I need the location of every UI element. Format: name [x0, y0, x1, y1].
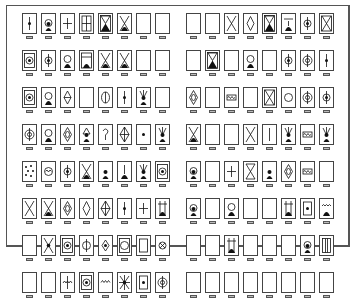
card-dot-line[interactable] — [117, 198, 132, 227]
card-tab[interactable] — [121, 221, 128, 224]
card-cross[interactable] — [60, 13, 75, 42]
card-tab[interactable] — [266, 295, 273, 298]
card-blank[interactable] — [243, 198, 258, 227]
card-tab[interactable] — [190, 73, 197, 76]
card-line-mound[interactable] — [281, 13, 296, 42]
card-tab[interactable] — [247, 221, 254, 224]
card-tab[interactable] — [45, 110, 52, 113]
card-hood-figure[interactable] — [186, 198, 201, 227]
card-hourglass-figure[interactable] — [205, 50, 220, 79]
card-pawn-rays[interactable] — [281, 124, 296, 153]
card-tab[interactable] — [190, 110, 197, 113]
card-tab[interactable] — [64, 73, 71, 76]
card-question[interactable] — [98, 124, 113, 153]
card-tab[interactable] — [102, 295, 109, 298]
card-blank[interactable] — [41, 272, 56, 301]
card-tab[interactable] — [140, 147, 147, 150]
card-diamond-oval[interactable] — [60, 124, 75, 153]
card-blank[interactable] — [155, 87, 170, 116]
card-tab[interactable] — [45, 73, 52, 76]
card-tab[interactable] — [102, 110, 109, 113]
card-tab[interactable] — [159, 295, 166, 298]
card-cross[interactable] — [136, 198, 151, 227]
card-tab[interactable] — [26, 147, 33, 150]
card-target-box[interactable] — [155, 161, 170, 190]
card-tab[interactable] — [266, 258, 273, 261]
card-tab[interactable] — [45, 221, 52, 224]
card-line[interactable] — [262, 124, 277, 153]
card-tab[interactable] — [209, 258, 216, 261]
card-tab[interactable] — [45, 147, 52, 150]
card-tab[interactable] — [159, 73, 166, 76]
card-tab[interactable] — [102, 73, 109, 76]
card-tab[interactable] — [190, 295, 197, 298]
card-blank[interactable] — [205, 161, 220, 190]
card-wave-mound[interactable] — [319, 198, 334, 227]
card-tab[interactable] — [228, 73, 235, 76]
card-circle-mound[interactable] — [41, 87, 56, 116]
card-blank[interactable] — [155, 50, 170, 79]
card-pawn-rays[interactable] — [136, 161, 151, 190]
card-dots-scatter[interactable] — [22, 161, 37, 190]
card-mound[interactable] — [117, 161, 132, 190]
card-blank[interactable] — [136, 50, 151, 79]
card-window-figure[interactable] — [79, 50, 94, 79]
card-tab[interactable] — [323, 73, 330, 76]
card-tab[interactable] — [247, 295, 254, 298]
card-blank[interactable] — [300, 272, 315, 301]
card-blank[interactable] — [262, 198, 277, 227]
card-blank[interactable] — [243, 235, 258, 264]
card-blank[interactable] — [205, 124, 220, 153]
card-blank[interactable] — [243, 87, 258, 116]
card-dot-line[interactable] — [117, 87, 132, 116]
card-tab[interactable] — [159, 147, 166, 150]
card-x-lines[interactable] — [22, 198, 37, 227]
card-blank[interactable] — [205, 235, 220, 264]
card-wave-box[interactable] — [300, 124, 315, 153]
card-tab[interactable] — [26, 258, 33, 261]
card-pawn[interactable] — [262, 161, 277, 190]
card-dot-line[interactable] — [319, 50, 334, 79]
card-pawn-rays[interactable] — [136, 87, 151, 116]
card-dot-circle[interactable] — [41, 50, 56, 79]
card-dot-diamond[interactable] — [98, 235, 113, 264]
card-dot-circle[interactable] — [281, 50, 296, 79]
card-star-diamond[interactable] — [60, 87, 75, 116]
card-circle-box[interactable] — [117, 235, 132, 264]
card-tab[interactable] — [304, 110, 311, 113]
card-tab[interactable] — [285, 147, 292, 150]
card-window-mound[interactable] — [224, 235, 239, 264]
card-blank[interactable] — [205, 198, 220, 227]
card-diamond[interactable] — [243, 13, 258, 42]
card-blank[interactable] — [224, 124, 239, 153]
card-wave-box[interactable] — [224, 87, 239, 116]
card-tab[interactable] — [323, 221, 330, 224]
card-x-figure[interactable] — [41, 198, 56, 227]
card-dot[interactable] — [136, 124, 151, 153]
card-tab[interactable] — [285, 295, 292, 298]
card-tab[interactable] — [83, 147, 90, 150]
card-blank[interactable] — [79, 87, 94, 116]
card-dot-box[interactable] — [136, 272, 151, 301]
card-circle-target[interactable] — [300, 50, 315, 79]
card-tab[interactable] — [140, 221, 147, 224]
card-blank[interactable] — [281, 272, 296, 301]
card-blank[interactable] — [186, 13, 201, 42]
card-blank[interactable] — [319, 272, 334, 301]
card-pawn[interactable] — [98, 161, 113, 190]
card-tab[interactable] — [83, 73, 90, 76]
card-cross[interactable] — [224, 161, 239, 190]
card-tab[interactable] — [83, 258, 90, 261]
card-tab[interactable] — [228, 295, 235, 298]
card-tab[interactable] — [45, 258, 52, 261]
card-tab[interactable] — [83, 295, 90, 298]
card-tab[interactable] — [83, 36, 90, 39]
card-circle-target[interactable] — [155, 272, 170, 301]
card-target-box[interactable] — [60, 235, 75, 264]
card-target-box[interactable] — [79, 272, 94, 301]
card-tab[interactable] — [323, 295, 330, 298]
card-tab[interactable] — [102, 258, 109, 261]
card-tab[interactable] — [159, 184, 166, 187]
card-star-burst[interactable] — [117, 272, 132, 301]
card-tab[interactable] — [26, 110, 33, 113]
